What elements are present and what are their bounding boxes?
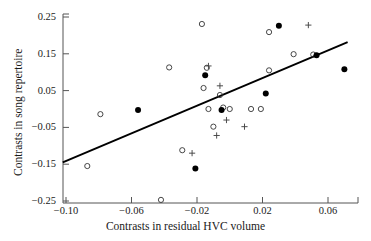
data-point-plus bbox=[217, 83, 223, 89]
y-tick-label: 0.25 bbox=[22, 12, 56, 23]
y-axis-title: Contrasts in song repertoire bbox=[12, 49, 24, 176]
data-point-open-circle bbox=[266, 68, 271, 73]
y-axis-ticks bbox=[63, 17, 69, 201]
y-tick-label: −0.25 bbox=[22, 196, 56, 207]
data-point-filled-circle bbox=[202, 72, 208, 78]
y-tick-label: −0.05 bbox=[22, 122, 56, 133]
x-tick-label: 0.02 bbox=[243, 206, 283, 217]
data-point-filled-circle bbox=[192, 166, 198, 172]
data-point-open-circle bbox=[248, 106, 253, 111]
data-point-plus bbox=[305, 22, 311, 28]
x-tick-label: −0.06 bbox=[112, 206, 152, 217]
data-point-open-circle bbox=[167, 65, 172, 70]
data-point-open-circle bbox=[206, 106, 211, 111]
data-point-open-circle bbox=[211, 124, 216, 129]
data-point-plus bbox=[189, 150, 195, 156]
data-point-open-circle bbox=[201, 85, 206, 90]
scatter-plot-figure: Contrasts in song repertoire Contrasts i… bbox=[0, 0, 371, 241]
data-point-open-circle bbox=[158, 197, 163, 202]
data-point-plus bbox=[223, 117, 229, 123]
data-point-open-circle bbox=[85, 163, 90, 168]
data-point-filled-circle bbox=[276, 23, 282, 29]
y-tick-label: 0.15 bbox=[22, 49, 56, 60]
regression-line bbox=[63, 42, 348, 162]
data-point-filled-circle bbox=[341, 66, 347, 72]
data-point-filled-circle bbox=[314, 52, 320, 58]
x-axis-ticks bbox=[66, 197, 328, 203]
data-point-open-circle bbox=[258, 106, 263, 111]
x-tick-label: −0.02 bbox=[177, 206, 217, 217]
regression-line-segment bbox=[63, 42, 348, 162]
data-point-filled-circle bbox=[135, 107, 141, 113]
data-point-open-circle bbox=[291, 52, 296, 57]
x-axis-title: Contrasts in residual HVC volume bbox=[0, 220, 371, 232]
data-point-open-circle bbox=[227, 106, 232, 111]
data-point-plus bbox=[214, 132, 220, 138]
data-point-filled-circle bbox=[219, 107, 225, 113]
data-point-plus bbox=[241, 124, 247, 130]
data-point-filled-circle bbox=[263, 91, 269, 97]
data-point-open-circle bbox=[98, 112, 103, 117]
x-tick-label: 0.06 bbox=[308, 206, 348, 217]
data-markers bbox=[85, 21, 348, 202]
data-point-open-circle bbox=[180, 148, 185, 153]
axis-frame bbox=[63, 14, 358, 203]
data-point-open-circle bbox=[199, 21, 204, 26]
data-point-plus bbox=[205, 63, 211, 69]
y-tick-label: 0.05 bbox=[22, 86, 56, 97]
y-tick-label: −0.15 bbox=[22, 159, 56, 170]
x-tick-label: −0.10 bbox=[46, 206, 86, 217]
data-point-open-circle bbox=[266, 29, 271, 34]
